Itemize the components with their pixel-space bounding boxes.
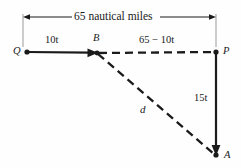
segment-ba-line bbox=[98, 54, 214, 154]
dimension-arrowhead-right-icon bbox=[209, 14, 216, 20]
segment-qb-line bbox=[27, 52, 90, 53]
point-marker-a bbox=[213, 152, 218, 157]
segment-ba-label: d bbox=[140, 104, 146, 115]
point-label-b: B bbox=[93, 33, 99, 44]
segment-qb-label: 10t bbox=[45, 35, 58, 46]
segment-pa-label: 15t bbox=[194, 93, 207, 104]
point-label-q: Q bbox=[13, 46, 21, 57]
dimension-arrowhead-left-icon bbox=[23, 14, 30, 20]
segment-bp-label: 65 − 10t bbox=[139, 35, 174, 46]
dimension-label: 65 nautical miles bbox=[74, 11, 153, 23]
point-label-a: A bbox=[224, 150, 230, 161]
diagram-canvas: 65 nautical miles 10t 65 − 10t 15t d Q B… bbox=[0, 0, 241, 168]
point-marker-q bbox=[24, 49, 29, 54]
segment-bp-line bbox=[99, 52, 216, 53]
point-label-p: P bbox=[223, 46, 229, 57]
point-marker-b bbox=[95, 51, 100, 56]
figure-graphics bbox=[0, 0, 241, 168]
point-marker-p bbox=[213, 49, 218, 54]
